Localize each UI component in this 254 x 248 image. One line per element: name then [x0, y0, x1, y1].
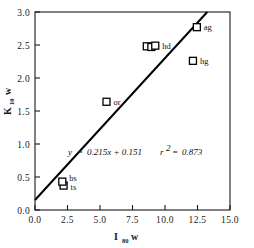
data-point-label: hg: [200, 56, 209, 66]
r-squared-exponent: 2: [166, 143, 171, 153]
data-point-label: hd: [162, 41, 171, 51]
x-tick-label: 0.0: [29, 215, 42, 225]
x-axis-title-tail: w: [131, 231, 139, 242]
x-tick-label: 12.5: [189, 215, 207, 225]
x-axis-ticks: 0.02.55.07.510.012.515.0: [29, 205, 239, 225]
x-tick-label: 10.0: [156, 215, 174, 225]
chart-svg: 0.02.55.07.510.012.515.0 0.00.51.01.52.0…: [0, 0, 254, 248]
y-tick-label: 2.5: [17, 41, 30, 51]
equation-annotation: y = 0.215x + 0.151 r 2 = 0.873: [67, 143, 203, 157]
x-tick-label: 2.5: [61, 215, 74, 225]
y-tick-label: 0.0: [17, 206, 30, 216]
equation-y-symbol: y: [67, 147, 72, 157]
y-tick-label: 2.0: [17, 74, 30, 84]
data-point-marker: [152, 42, 159, 49]
equation-equals: =: [77, 147, 83, 157]
r-squared-value: 0.873: [182, 147, 203, 157]
x-axis-title-subscript: 80: [122, 237, 129, 244]
y-axis-title-tail: w: [2, 87, 13, 95]
y-axis-title: K 10 w: [2, 87, 15, 115]
y-tick-label: 1.5: [17, 107, 30, 117]
data-point-label: or: [114, 97, 121, 107]
data-point-group: tsbsorhdhgag: [59, 22, 213, 191]
data-point-marker: [193, 24, 200, 31]
x-axis-title: I 80 w: [114, 231, 139, 244]
x-tick-label: 15.0: [221, 215, 239, 225]
y-axis-ticks: 0.00.51.01.52.02.53.0: [17, 8, 40, 216]
y-axis-title-subscript: 10: [8, 99, 15, 106]
r-squared-equals: =: [172, 147, 178, 157]
x-axis-title-main: I: [114, 231, 118, 242]
data-point-label: ts: [71, 182, 77, 192]
x-tick-label: 7.5: [126, 215, 139, 225]
y-axis-title-main: K: [2, 107, 13, 115]
data-point-label: ag: [204, 22, 213, 32]
y-tick-label: 1.0: [17, 140, 30, 150]
data-point-marker: [59, 178, 66, 185]
regression-line: [35, 12, 207, 200]
scatter-chart: 0.02.55.07.510.012.515.0 0.00.51.01.52.0…: [0, 0, 254, 248]
equation-body: 0.215x + 0.151: [87, 147, 142, 157]
r-squared-symbol: r: [160, 147, 164, 157]
data-point-marker: [103, 98, 110, 105]
y-tick-label: 3.0: [17, 8, 30, 18]
y-tick-label: 0.5: [17, 173, 30, 183]
data-point-label: bs: [69, 173, 77, 183]
x-tick-label: 5.0: [94, 215, 107, 225]
data-point-marker: [189, 57, 196, 64]
